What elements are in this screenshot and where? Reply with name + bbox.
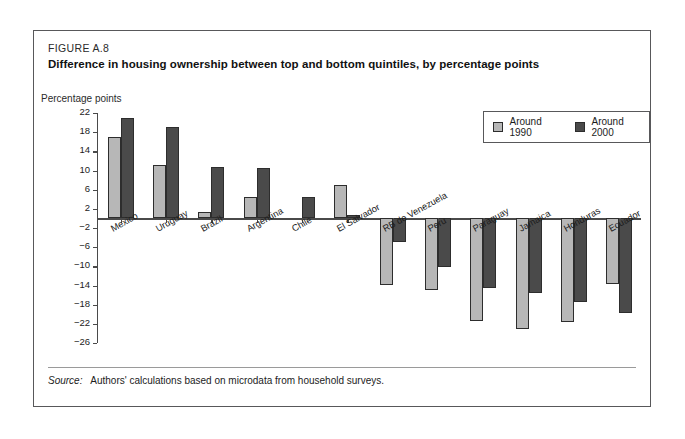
y-axis-tick-label: −14	[74, 279, 90, 290]
y-axis-tick-label: 2	[85, 202, 90, 213]
bar-1990	[470, 218, 483, 321]
y-axis-tick-label: −26	[74, 336, 90, 347]
bar-1990	[561, 218, 574, 322]
y-axis-tick-label: 18	[79, 125, 90, 136]
bars-container: MexicoUruguayBrazilArgentinaChileEl Salv…	[97, 113, 641, 343]
bar-2000	[619, 218, 632, 312]
y-axis-tick-mark	[93, 343, 98, 344]
bar-1990	[334, 185, 347, 218]
y-axis-tick-label: −18	[74, 298, 90, 309]
y-axis-tick-label: −22	[74, 317, 90, 328]
y-axis-tick-label: 14	[79, 144, 90, 155]
source-divider	[48, 367, 636, 368]
y-axis-tick-label: −10	[74, 259, 90, 270]
source-text: Authors' calculations based on microdata…	[90, 375, 384, 386]
bar-2000	[211, 167, 224, 219]
figure-number: FIGURE A.8	[48, 42, 109, 54]
source-label: Source:	[48, 375, 82, 386]
bar-chart-plot-area: 2218141062−2−6−10−14−18−22−26 MexicoUrug…	[59, 113, 641, 343]
bar-1990	[153, 165, 166, 219]
y-axis-tick-label: −6	[79, 240, 90, 251]
bar-1990	[244, 197, 257, 218]
bar-2000	[121, 118, 134, 218]
y-axis-title: Percentage points	[41, 93, 122, 104]
bar-1990	[198, 212, 211, 218]
y-axis-tick-label: 22	[79, 106, 90, 117]
y-axis-tick-label: −2	[79, 221, 90, 232]
bar-2000	[574, 218, 587, 302]
bar-2000	[257, 168, 270, 219]
bar-2000	[483, 218, 496, 287]
bar-1990	[108, 137, 121, 218]
figure-title: Difference in housing ownership between …	[48, 58, 539, 70]
y-axis-tick-label: 6	[85, 183, 90, 194]
bar-2000	[166, 127, 179, 218]
source-note: Source: Authors' calculations based on m…	[48, 375, 384, 386]
figure-frame: FIGURE A.8 Difference in housing ownersh…	[33, 30, 651, 407]
bar-2000	[529, 218, 542, 292]
bar-1990	[516, 218, 529, 328]
y-axis-tick-label: 10	[79, 164, 90, 175]
